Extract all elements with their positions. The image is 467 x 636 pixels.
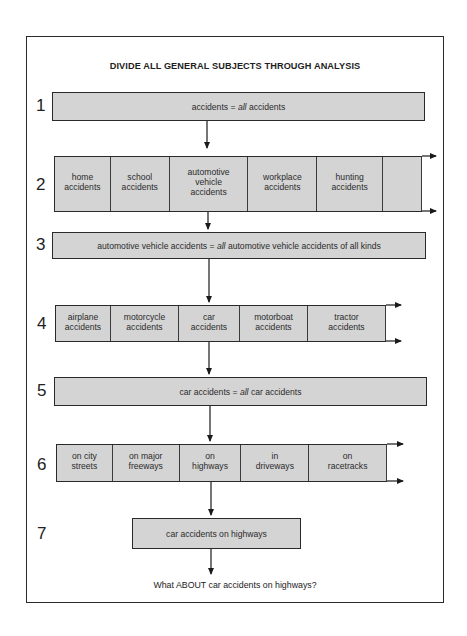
connector-arrows	[0, 0, 467, 636]
